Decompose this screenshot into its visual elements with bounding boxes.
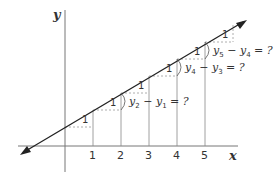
- x-tick-5: 5: [201, 150, 208, 161]
- step-label: 1: [82, 115, 88, 125]
- step-label: 1: [110, 98, 116, 108]
- difference-label-y4-y3: y4 − y3 = ?: [185, 62, 245, 76]
- x-tick-4: 4: [173, 150, 180, 161]
- function-line: [24, 22, 243, 152]
- step-label: 1: [138, 81, 144, 91]
- difference-label-y2-y1: y2 − y1 = ?: [129, 96, 189, 110]
- step-label: 1: [222, 30, 228, 40]
- linear-function-diagram: y x 1 2 3 4 5 1 1 1 1 1 1 y2 − y1 = ? y4…: [0, 0, 278, 176]
- x-axis-label: x: [229, 149, 237, 162]
- x-tick-2: 2: [117, 150, 124, 161]
- arrowhead-upper: [236, 20, 247, 29]
- step-label: 1: [194, 47, 200, 57]
- x-tick-1: 1: [89, 150, 96, 161]
- step-label: 1: [166, 64, 172, 74]
- difference-label-y5-y4: y5 − y4 = ?: [213, 45, 273, 59]
- y-axis-label: y: [53, 8, 61, 21]
- vertical-guides: [93, 42, 205, 146]
- arrowhead-lower: [20, 146, 31, 155]
- x-tick-3: 3: [145, 150, 152, 161]
